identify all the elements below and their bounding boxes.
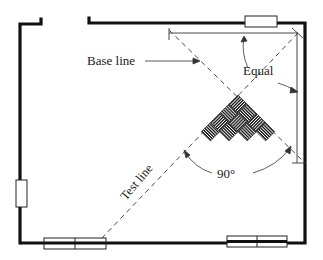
test-line-label: Test line — [118, 161, 156, 203]
equal-label: Equal — [243, 63, 274, 78]
angle-label: 90° — [217, 166, 235, 181]
parquet-tiles — [201, 95, 275, 169]
base-line-label: Base line — [87, 53, 135, 68]
window-bottom-right — [227, 236, 287, 247]
window-top — [245, 16, 277, 27]
angle-arc — [184, 146, 291, 173]
room-layout-diagram: Base line Equal 90° Test line — [0, 0, 323, 260]
window-bottom-left — [44, 238, 106, 249]
base-line-pointer — [145, 58, 200, 64]
window-left — [16, 180, 27, 207]
wall-top-left — [20, 19, 41, 243]
